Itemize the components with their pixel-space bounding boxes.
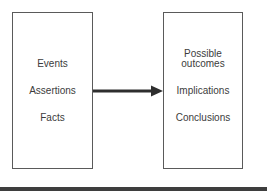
input-box: Events Assertions Facts [12,12,93,169]
label-possible-outcomes: Possible outcomes [164,49,242,69]
bottom-divider [0,187,267,191]
label-events: Events [13,59,92,69]
label-possible-outcomes-line-2: outcomes [164,59,242,69]
label-implications: Implications [164,86,242,96]
output-box: Possible outcomes Implications Conclusio… [163,12,243,169]
arrow-right-icon [93,85,163,97]
label-facts: Facts [13,113,92,123]
label-conclusions: Conclusions [164,113,242,123]
label-assertions: Assertions [13,86,92,96]
